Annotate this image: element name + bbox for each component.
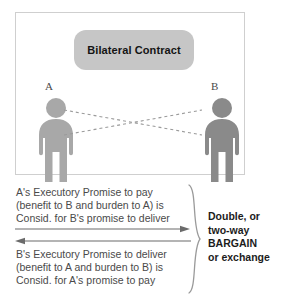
party-b-label: B — [211, 80, 218, 92]
connector-a-to-b — [64, 110, 202, 135]
promise-b-to-a-text: B's Executory Promise to deliver (benefi… — [16, 248, 188, 286]
promise-a-to-b-line-1: A's Executory Promise to pay — [16, 186, 188, 199]
promise-b-to-a-line-3: Consid. for A's promise to pay — [16, 274, 188, 287]
connector-b-to-a — [64, 110, 202, 135]
promise-a-to-b-line-2: (benefit to B and burden to A) is — [16, 199, 188, 212]
bargain-line-1: Double, or — [208, 210, 283, 224]
promise-b-to-a-line-1: B's Executory Promise to deliver — [16, 248, 188, 261]
party-b-figure-icon — [200, 96, 244, 184]
arrow-leftward-head — [15, 238, 25, 244]
bargain-line-2: two-way — [208, 224, 283, 238]
promise-a-to-b-text: A's Executory Promise to pay (benefit to… — [16, 186, 188, 224]
contract-title-box: Bilateral Contract — [74, 30, 194, 70]
party-a-figure-icon — [34, 96, 78, 184]
bidirectional-arrows — [14, 224, 192, 248]
bargain-line-4: or exchange — [208, 251, 283, 265]
exchange-explanation-block: A's Executory Promise to pay (benefit to… — [0, 182, 283, 299]
bargain-line-3: BARGAIN — [208, 237, 283, 251]
promise-a-to-b-line-3: Consid. for B's promise to deliver — [16, 212, 188, 225]
curly-brace-icon — [186, 184, 206, 294]
party-a-label: A — [45, 80, 53, 92]
promise-b-to-a-line-2: (benefit to A and burden to B) is — [16, 261, 188, 274]
bilateral-contract-diagram-panel: Bilateral Contract A B — [15, 12, 245, 175]
contract-title-label: Bilateral Contract — [87, 44, 181, 56]
bargain-summary-label: Double, or two-way BARGAIN or exchange — [208, 210, 283, 264]
